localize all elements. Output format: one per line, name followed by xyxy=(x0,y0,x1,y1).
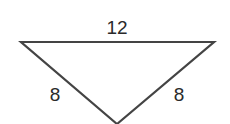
top-side-label: 12 xyxy=(106,17,127,38)
triangle-diagram: 12 8 8 xyxy=(0,0,230,124)
triangle-shape xyxy=(21,42,214,124)
right-side-label: 8 xyxy=(174,84,185,105)
left-side-label: 8 xyxy=(50,84,61,105)
